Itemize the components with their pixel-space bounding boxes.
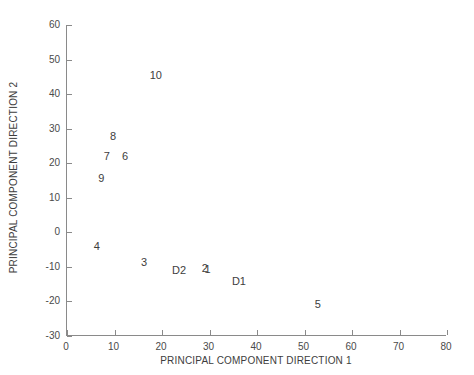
x-tick-label: 80	[426, 341, 466, 352]
data-point-label: 1	[205, 263, 211, 275]
x-tick-mark	[400, 330, 401, 335]
x-tick-mark	[305, 330, 306, 335]
data-point-label: 7	[104, 150, 110, 162]
x-tick-label: 40	[236, 341, 276, 352]
y-tick-mark	[67, 198, 72, 199]
y-tick-label: -30	[16, 330, 60, 341]
x-tick-mark	[447, 330, 448, 335]
y-axis-title: PRINCIPAL COMPONENT DIRECTION 2	[8, 22, 19, 333]
y-tick-label: -10	[16, 261, 60, 272]
x-tick-mark	[115, 330, 116, 335]
x-tick-label: 50	[284, 341, 324, 352]
x-axis-title: PRINCIPAL COMPONENT DIRECTION 1	[66, 355, 446, 366]
y-tick-mark	[67, 232, 72, 233]
y-tick-mark	[67, 301, 72, 302]
x-tick-label: 10	[94, 341, 134, 352]
y-tick-label: 40	[16, 88, 60, 99]
y-tick-label: 30	[16, 123, 60, 134]
data-point-label: 8	[110, 130, 116, 142]
x-tick-label: 30	[189, 341, 229, 352]
y-tick-mark	[67, 129, 72, 130]
x-tick-mark	[257, 330, 258, 335]
y-tick-label: -20	[16, 295, 60, 306]
y-tick-mark	[67, 336, 72, 337]
y-tick-label: 20	[16, 157, 60, 168]
y-tick-mark	[67, 94, 72, 95]
x-tick-mark	[210, 330, 211, 335]
y-tick-mark	[67, 25, 72, 26]
x-tick-mark	[162, 330, 163, 335]
data-point-label: 9	[98, 172, 104, 184]
data-point-label: 5	[315, 298, 321, 310]
x-tick-mark	[352, 330, 353, 335]
y-tick-mark	[67, 60, 72, 61]
x-tick-label: 60	[331, 341, 371, 352]
scatter-plot-figure: 10876943D221D15 01020304050607080 -30-20…	[0, 0, 474, 375]
data-point-label: D1	[232, 275, 246, 287]
data-point-label: 3	[141, 256, 147, 268]
y-tick-label: 0	[16, 226, 60, 237]
y-tick-label: 60	[16, 19, 60, 30]
y-tick-mark	[67, 163, 72, 164]
plot-area: 10876943D221D15	[66, 25, 446, 336]
x-tick-label: 0	[46, 341, 86, 352]
x-tick-label: 20	[141, 341, 181, 352]
data-point-label: D2	[172, 264, 186, 276]
y-tick-label: 50	[16, 54, 60, 65]
data-point-label: 10	[150, 69, 162, 81]
data-point-label: 6	[122, 150, 128, 162]
data-point-label: 4	[94, 240, 100, 252]
y-tick-mark	[67, 267, 72, 268]
x-tick-label: 70	[379, 341, 419, 352]
x-tick-mark	[67, 330, 68, 335]
y-tick-label: 10	[16, 192, 60, 203]
